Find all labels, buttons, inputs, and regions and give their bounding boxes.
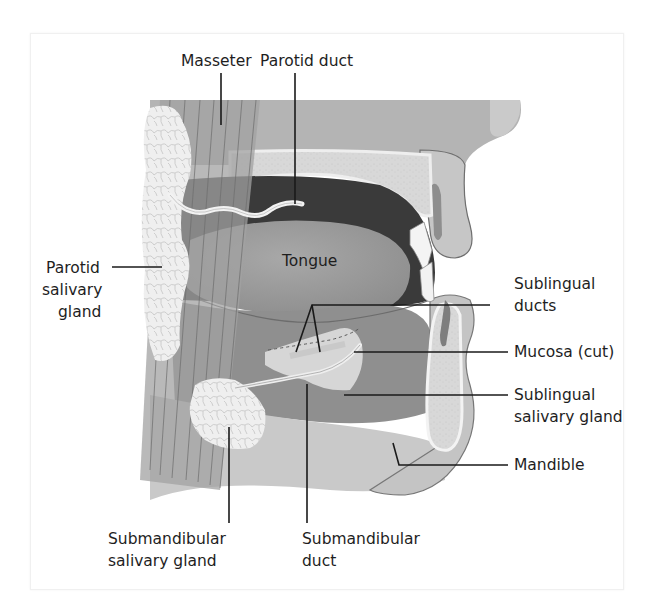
label-tongue: Tongue [282,252,337,270]
label-parotid-gland: Parotid salivary gland [40,257,106,323]
label-submandibular-duct-line1: Submandibular [302,528,420,550]
label-parotid-gland-line2: salivary [42,279,106,301]
label-submandibular-duct: Submandibular duct [302,528,420,572]
label-sublingual-ducts: Sublingual ducts [514,273,595,317]
label-masseter: Masseter [181,50,252,72]
label-parotid-gland-line3: gland [40,301,106,323]
label-sublingual-ducts-line1: Sublingual [514,273,595,295]
label-submandibular-gland-line2: salivary gland [108,550,226,572]
label-submandibular-gland-line1: Submandibular [108,528,226,550]
label-sublingual-ducts-line2: ducts [514,295,595,317]
label-submandibular-gland: Submandibular salivary gland [108,528,226,572]
label-parotid-gland-line1: Parotid [40,257,106,279]
label-mucosa-cut: Mucosa (cut) [514,341,614,363]
label-submandibular-duct-line2: duct [302,550,420,572]
label-sublingual-gland-line2: salivary gland [514,406,623,428]
label-parotid-duct: Parotid duct [260,50,353,72]
label-sublingual-gland-line1: Sublingual [514,384,623,406]
label-mandible: Mandible [514,454,585,476]
label-sublingual-gland: Sublingual salivary gland [514,384,623,428]
